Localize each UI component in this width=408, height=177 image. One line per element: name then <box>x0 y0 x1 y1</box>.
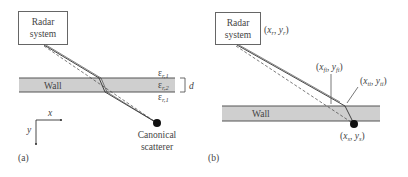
wall-label: Wall <box>252 109 270 119</box>
panel-b: Wall Radar system (xr, yr) (xfi, yfi) (x… <box>208 13 387 165</box>
radar-label-line1: Radar <box>32 17 56 27</box>
figure: Wall Radar system Canonical scatterer εr… <box>0 0 408 177</box>
transmit-point-leader <box>347 87 358 103</box>
panel-label-b: (b) <box>208 153 219 164</box>
wall-label: Wall <box>44 81 62 91</box>
radar-label-line1: Radar <box>227 18 251 28</box>
scatterer-dot-b <box>350 120 358 128</box>
scatterer-coordinates: (xs, ys) <box>340 131 365 142</box>
scatterer-dot <box>153 119 161 127</box>
y-axis-label: y <box>26 125 32 135</box>
radar-system-box-a: Radar system <box>19 12 68 45</box>
permittivity-bottom: εr,1 <box>158 92 169 103</box>
panel-a: Wall Radar system Canonical scatterer εr… <box>18 12 194 165</box>
coordinate-axes <box>36 120 61 144</box>
permittivity-top: εr,1 <box>158 68 169 79</box>
wall-b: Wall <box>222 106 380 121</box>
front-point-coordinates: (xfi, yfi) <box>316 62 343 73</box>
wall-a: Wall <box>19 78 175 92</box>
radar-label-line2: system <box>225 30 252 40</box>
radar-label-line2: system <box>30 29 57 39</box>
scatterer-label-line1: Canonical <box>138 130 177 140</box>
panel-label-a: (a) <box>18 153 29 164</box>
thickness-bracket <box>180 78 185 92</box>
radar-coordinates: (xr, yr) <box>264 25 289 36</box>
x-axis-label: x <box>47 108 53 118</box>
incident-ray-b-2 <box>239 45 340 102</box>
thickness-label: d <box>189 81 194 91</box>
radar-system-box-b: Radar system <box>216 13 261 45</box>
transmit-point-coordinates: (xti, yti) <box>360 76 387 87</box>
scatterer-label-line2: scatterer <box>141 142 174 152</box>
